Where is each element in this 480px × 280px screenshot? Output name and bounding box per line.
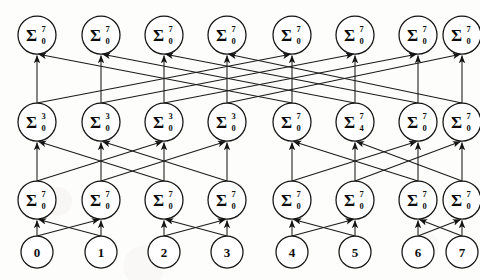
input-node-7[interactable]: 7 (446, 236, 478, 268)
sigma-icon: Σ (90, 26, 101, 45)
input-node-label: 0 (34, 245, 41, 260)
operator-node-r2-c2[interactable]: Σ70Σ 0..7 (145, 181, 183, 219)
sigma-subscript: 0 (296, 123, 300, 133)
sigma-icon: Σ (90, 113, 101, 132)
sigma-subscript: 0 (466, 123, 470, 133)
sigma-icon: Σ (216, 113, 227, 132)
sigma-subscript: 0 (168, 36, 172, 46)
operator-node-r1-c3[interactable]: Σ30Σ 0..3 (208, 103, 246, 141)
sigma-subscript: 0 (231, 123, 235, 133)
operator-node-r0-c5[interactable]: Σ70Σ 0..7 (336, 16, 374, 54)
operator-node-r1-c4[interactable]: Σ70Σ 0..7 (273, 103, 311, 141)
sigma-subscript: 0 (41, 201, 45, 211)
diagram-canvas: Σ70Σ 0..7Σ70Σ 0..7Σ70Σ 0..7Σ70Σ 0..7Σ70Σ… (0, 0, 480, 280)
input-node-label: 1 (98, 245, 105, 260)
sigma-subscript: 0 (422, 36, 426, 46)
sigma-subscript: 0 (231, 36, 235, 46)
sigma-subscript: 0 (168, 123, 172, 133)
operator-node-r2-c3[interactable]: Σ70Σ 0..7 (208, 181, 246, 219)
input-node-3[interactable]: 3 (211, 236, 243, 268)
operator-node-r0-c2[interactable]: Σ70Σ 0..7 (145, 16, 183, 54)
nodes-layer: Σ70Σ 0..7Σ70Σ 0..7Σ70Σ 0..7Σ70Σ 0..7Σ70Σ… (18, 16, 480, 268)
operator-node-r2-c4[interactable]: Σ70Σ 0..7 (273, 181, 311, 219)
sigma-icon: Σ (26, 113, 37, 132)
input-node-label: 3 (224, 245, 231, 260)
sigma-icon: Σ (90, 191, 101, 210)
operator-node-r0-c6[interactable]: Σ70Σ 0..7 (399, 16, 437, 54)
sigma-icon: Σ (407, 26, 418, 45)
sigma-icon: Σ (26, 191, 37, 210)
sigma-subscript: 0 (422, 201, 426, 211)
sigma-superscript: 3 (105, 111, 109, 121)
sigma-superscript: 3 (231, 111, 235, 121)
sigma-subscript: 0 (466, 201, 470, 211)
operator-node-r2-c0[interactable]: Σ70Σ 0..7 (18, 181, 56, 219)
operator-node-r2-c6[interactable]: Σ70Σ 0..7 (399, 181, 437, 219)
sigma-icon: Σ (281, 113, 292, 132)
input-node-label: 5 (352, 245, 359, 260)
sigma-icon: Σ (153, 113, 164, 132)
operator-node-r0-c0[interactable]: Σ70Σ 0..7 (18, 16, 56, 54)
operator-node-r1-c6[interactable]: Σ70Σ 0..7 (399, 103, 437, 141)
operator-node-r2-c7[interactable]: Σ70Σ 0..7 (443, 181, 480, 219)
sigma-subscript: 0 (296, 201, 300, 211)
sigma-subscript: 0 (168, 201, 172, 211)
sigma-icon: Σ (344, 26, 355, 45)
sigma-icon: Σ (281, 26, 292, 45)
sigma-subscript: 0 (466, 36, 470, 46)
sigma-subscript: 0 (231, 201, 235, 211)
sigma-superscript: 3 (168, 111, 172, 121)
sigma-subscript: 0 (422, 123, 426, 133)
sigma-icon: Σ (344, 191, 355, 210)
input-node-5[interactable]: 5 (339, 236, 371, 268)
sigma-subscript: 0 (41, 36, 45, 46)
operator-node-r1-c1[interactable]: Σ30Σ 0..3 (82, 103, 120, 141)
input-node-label: 4 (289, 245, 296, 260)
operator-node-r0-c3[interactable]: Σ70Σ 0..7 (208, 16, 246, 54)
sigma-icon: Σ (153, 191, 164, 210)
sigma-icon: Σ (407, 113, 418, 132)
sigma-icon: Σ (344, 113, 355, 132)
sigma-icon: Σ (451, 26, 462, 45)
sigma-icon: Σ (216, 26, 227, 45)
input-node-label: 2 (161, 245, 168, 260)
sigma-icon: Σ (451, 113, 462, 132)
sigma-subscript: 0 (105, 123, 109, 133)
input-node-6[interactable]: 6 (402, 236, 434, 268)
sigma-subscript: 0 (41, 123, 45, 133)
operator-node-r0-c7[interactable]: Σ70Σ 0..7 (443, 16, 480, 54)
sigma-icon: Σ (26, 26, 37, 45)
prefix-network-svg: Σ70Σ 0..7Σ70Σ 0..7Σ70Σ 0..7Σ70Σ 0..7Σ70Σ… (0, 0, 480, 280)
input-node-label: 7 (459, 245, 466, 260)
sigma-icon: Σ (153, 26, 164, 45)
input-node-0[interactable]: 0 (21, 236, 53, 268)
sigma-subscript: 0 (105, 36, 109, 46)
sigma-subscript: 0 (296, 36, 300, 46)
operator-node-r0-c4[interactable]: Σ70Σ 0..7 (273, 16, 311, 54)
sigma-subscript: 0 (105, 201, 109, 211)
input-node-label: 6 (415, 245, 422, 260)
input-node-2[interactable]: 2 (148, 236, 180, 268)
operator-node-r1-c7[interactable]: Σ70Σ 0..7 (443, 103, 480, 141)
sigma-icon: Σ (407, 191, 418, 210)
input-node-4[interactable]: 4 (276, 236, 308, 268)
operator-node-r1-c5[interactable]: Σ74Σ 4..7 (336, 103, 374, 141)
operator-node-r2-c1[interactable]: Σ70Σ 0..7 (82, 181, 120, 219)
sigma-icon: Σ (216, 191, 227, 210)
operator-node-r1-c0[interactable]: Σ30Σ 0..3 (18, 103, 56, 141)
sigma-superscript: 3 (41, 111, 45, 121)
sigma-icon: Σ (451, 191, 462, 210)
operator-node-r1-c2[interactable]: Σ30Σ 0..3 (145, 103, 183, 141)
operator-node-r0-c1[interactable]: Σ70Σ 0..7 (82, 16, 120, 54)
input-node-1[interactable]: 1 (85, 236, 117, 268)
operator-node-r2-c5[interactable]: Σ70Σ 0..7 (336, 181, 374, 219)
sigma-icon: Σ (281, 191, 292, 210)
sigma-subscript: 0 (359, 36, 363, 46)
sigma-subscript: 0 (359, 201, 363, 211)
